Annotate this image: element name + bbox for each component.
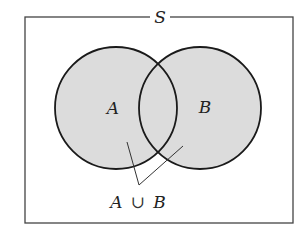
set-b-label: B [198, 97, 212, 117]
union-fill [55, 47, 261, 169]
union-annotation-a: A [108, 192, 122, 212]
union-annotation-b: B [152, 192, 166, 212]
union-operator: ∪ [131, 192, 145, 212]
union-annotation: A ∪ B [108, 192, 166, 212]
universe-label: S [154, 7, 166, 27]
set-a-label: A [105, 98, 119, 118]
venn-diagram: S A B A ∪ B [0, 0, 304, 245]
